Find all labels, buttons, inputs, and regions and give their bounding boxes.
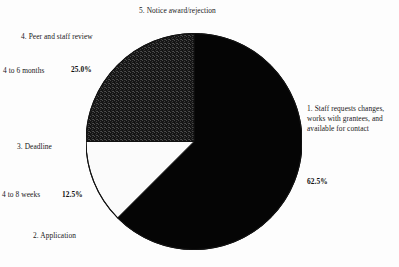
- pie-chart-graphic: [86, 32, 302, 251]
- percent-label-62-5: 62.5%: [307, 177, 328, 186]
- pie-chart-figure: 5. Notice award/rejection 4. Peer and st…: [0, 0, 399, 267]
- pie-svg: [86, 32, 302, 251]
- percent-label-12-5: 12.5%: [62, 190, 83, 199]
- label-notice-award-rejection: 5. Notice award/rejection: [139, 6, 216, 16]
- pie-slice-peer-review[interactable]: [86, 33, 194, 141]
- label-duration-4-to-6-months: 4 to 6 months: [3, 66, 45, 76]
- label-duration-4-to-8-weeks: 4 to 8 weeks: [2, 190, 40, 200]
- percent-label-25: 25.0%: [71, 65, 92, 74]
- label-peer-and-staff-review: 4. Peer and staff review: [21, 32, 93, 42]
- label-staff-requests-changes: 1. Staff requests changes, works with gr…: [307, 104, 397, 135]
- label-deadline: 3. Deadline: [17, 142, 52, 152]
- label-application: 2. Application: [33, 231, 76, 241]
